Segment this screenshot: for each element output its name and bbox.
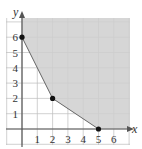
- svg-text:4: 4: [13, 62, 19, 74]
- svg-text:1: 1: [13, 108, 19, 120]
- y-axis-label: y: [12, 5, 19, 19]
- svg-text:3: 3: [65, 133, 71, 145]
- svg-text:3: 3: [13, 77, 19, 89]
- svg-text:2: 2: [50, 133, 56, 145]
- svg-text:5: 5: [13, 47, 19, 59]
- svg-text:4: 4: [80, 133, 86, 145]
- svg-text:1: 1: [35, 133, 41, 145]
- shaded-feasible-region: [22, 18, 130, 129]
- feasible-region-chart: 123456123456 x y: [0, 0, 142, 149]
- x-axis-label: x: [131, 122, 138, 136]
- svg-text:6: 6: [111, 133, 117, 145]
- svg-text:6: 6: [13, 31, 19, 43]
- svg-text:5: 5: [96, 133, 102, 145]
- svg-text:2: 2: [13, 92, 19, 104]
